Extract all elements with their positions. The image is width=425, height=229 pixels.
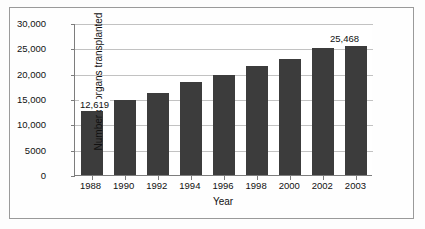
data-label-2003: 25,468 — [329, 33, 360, 44]
bar-2003 — [345, 46, 367, 175]
bar-1990 — [114, 100, 136, 175]
y-tick-label-15000: 15,000 — [2, 95, 46, 104]
plot-area: Number of organs transplanted — [74, 24, 372, 176]
x-axis-title: Year — [74, 196, 372, 207]
bar-2000 — [279, 59, 301, 175]
bar-2002 — [312, 48, 334, 175]
bar-1992 — [147, 93, 169, 175]
gridline-30000 — [75, 24, 373, 25]
y-tick-label-0: 0 — [2, 171, 46, 180]
y-tick-20000 — [71, 75, 75, 76]
y-tick-label-5000: 5000 — [2, 146, 46, 155]
y-tick-10000 — [71, 125, 75, 126]
bar-1998 — [246, 66, 268, 175]
bar-1994 — [180, 82, 202, 175]
bar-1996 — [213, 75, 235, 175]
y-tick-15000 — [71, 100, 75, 101]
bar-chart: Number of organs transplanted 30,00025,0… — [0, 0, 425, 229]
data-label-1988: 12,619 — [79, 99, 110, 110]
y-tick-label-30000: 30,000 — [2, 19, 46, 28]
x-tick-label-2003: 2003 — [335, 180, 375, 191]
y-tick-label-20000: 20,000 — [2, 70, 46, 79]
y-tick-30000 — [71, 24, 75, 25]
y-tick-label-10000: 10,000 — [2, 120, 46, 129]
chart-page: Number of organs transplanted 30,00025,0… — [0, 0, 425, 229]
y-tick-0 — [71, 176, 75, 177]
y-tick-5000 — [71, 151, 75, 152]
y-tick-25000 — [71, 49, 75, 50]
y-tick-label-25000: 25,000 — [2, 44, 46, 53]
y-axis-title: Number of organs transplanted — [93, 12, 104, 152]
